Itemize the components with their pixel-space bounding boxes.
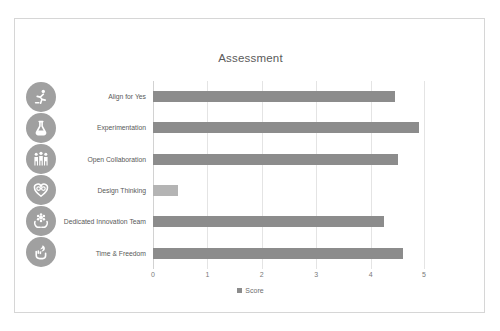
x-tick-0: 0	[151, 271, 155, 278]
bar-design-thinking[interactable]	[153, 185, 178, 196]
category-icon-column	[23, 82, 63, 268]
flask-icon	[26, 113, 56, 143]
collaboration-people-icon	[26, 144, 56, 174]
bar-open-collaboration[interactable]	[153, 154, 398, 165]
chart-legend[interactable]: Score	[15, 287, 486, 294]
bar-row[interactable]: Dedicated Innovation Team	[153, 206, 425, 237]
value-axis: 0 1 2 3 4 5	[153, 269, 425, 285]
bar-row[interactable]: Align for Yes	[153, 81, 425, 112]
bar-time-and-freedom[interactable]	[153, 248, 403, 259]
bar-row[interactable]: Open Collaboration	[153, 144, 425, 175]
category-label: Open Collaboration	[87, 156, 146, 163]
x-tick-1: 1	[205, 271, 209, 278]
x-tick-5: 5	[422, 271, 426, 278]
category-label: Dedicated Innovation Team	[64, 218, 146, 225]
design-thinking-heart-icon	[26, 175, 56, 205]
bar-align-for-yes[interactable]	[153, 91, 395, 102]
category-label: Time & Freedom	[96, 250, 146, 257]
category-label: Design Thinking	[97, 187, 146, 194]
legend-swatch-score	[237, 288, 242, 293]
bar-row[interactable]: Time & Freedom	[153, 238, 425, 269]
running-person-icon	[26, 82, 56, 112]
bar-row[interactable]: Design Thinking	[153, 175, 425, 206]
x-tick-4: 4	[369, 271, 373, 278]
category-label: Experimentation	[97, 124, 146, 131]
slide-frame: Assessment	[14, 18, 485, 313]
hands-holding-flower-icon	[26, 206, 56, 236]
bar-row[interactable]: Experimentation	[153, 112, 425, 143]
plot-area: Align for Yes Experimentation Open Colla…	[153, 81, 425, 269]
legend-label-score: Score	[245, 287, 263, 294]
bar-dedicated-innovation-team[interactable]	[153, 216, 384, 227]
x-tick-2: 2	[260, 271, 264, 278]
hand-releasing-bird-icon	[26, 237, 56, 267]
x-tick-3: 3	[314, 271, 318, 278]
category-label: Align for Yes	[108, 93, 146, 100]
assessment-bar-chart[interactable]: Assessment	[15, 19, 486, 314]
bar-experimentation[interactable]	[153, 122, 419, 133]
chart-title: Assessment	[15, 52, 486, 64]
